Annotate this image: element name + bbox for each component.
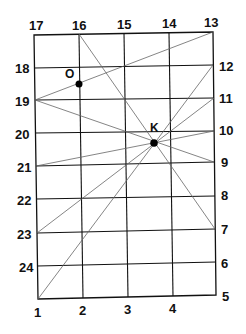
- line-21-10: [36, 131, 214, 166]
- label-9: 9: [221, 155, 228, 170]
- label-4: 4: [169, 301, 177, 316]
- label-12: 12: [219, 59, 233, 74]
- label-14: 14: [162, 16, 177, 31]
- label-6: 6: [221, 256, 228, 271]
- point-o: [76, 81, 83, 88]
- label-20: 20: [15, 127, 29, 142]
- label-11: 11: [219, 91, 233, 106]
- label-21: 21: [17, 160, 31, 175]
- top-labels: 17 16 15 14 13: [29, 15, 218, 33]
- label-16: 16: [72, 18, 86, 33]
- label-24: 24: [19, 260, 34, 275]
- label-13: 13: [204, 15, 218, 30]
- label-3: 3: [124, 302, 131, 317]
- bottom-labels: 1 2 3 4: [34, 301, 177, 320]
- point-k: [150, 139, 158, 147]
- label-15: 15: [117, 17, 131, 32]
- label-5: 5: [222, 289, 229, 304]
- label-8: 8: [221, 188, 228, 203]
- grid-diagram: O K 17 16 15 14 13 18 19 20 21 22 23 24 …: [0, 0, 246, 334]
- label-22: 22: [17, 193, 31, 208]
- label-2: 2: [79, 303, 86, 318]
- label-23: 23: [17, 227, 31, 242]
- label-1: 1: [34, 305, 41, 320]
- left-labels: 18 19 20 21 22 23 24: [15, 61, 34, 275]
- label-17: 17: [29, 18, 43, 33]
- right-labels: 12 11 10 9 8 7 6 5: [219, 59, 233, 304]
- label-19: 19: [15, 94, 29, 109]
- point-k-label: K: [150, 121, 159, 135]
- point-o-label: O: [65, 67, 74, 81]
- label-10: 10: [219, 123, 233, 138]
- label-7: 7: [221, 222, 228, 237]
- label-18: 18: [15, 61, 29, 76]
